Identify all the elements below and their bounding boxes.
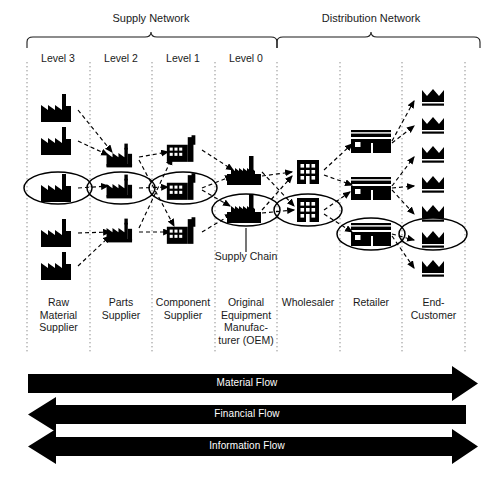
crown-icon (422, 146, 444, 163)
store-icon (351, 177, 391, 200)
distribution-network-label: Distribution Network (306, 12, 436, 24)
crown-icon (422, 176, 444, 193)
level-3-label: Level 3 (28, 52, 88, 64)
column-label-end-customer: End- Customer (403, 296, 464, 321)
factory-icon (107, 144, 133, 168)
level-1-label: Level 1 (153, 52, 213, 64)
factory-windows-icon (167, 217, 196, 244)
column-label-retailer: Retailer (341, 296, 401, 309)
material-flow-label: Material Flow (177, 377, 317, 388)
factory-windows-icon (167, 173, 196, 200)
crown-icon (422, 205, 444, 222)
column-label-oem: Original Equipment Manufac- turer (OEM) (216, 296, 276, 346)
column-label-parts-supplier: Parts Supplier (91, 296, 151, 321)
crown-icon (422, 260, 444, 277)
supply-chain-diagram: Supply Network Distribution Network Leve… (0, 0, 494, 481)
factory-icon (107, 175, 133, 199)
supply-network-brace (27, 32, 277, 48)
plant-icon (227, 194, 261, 223)
store-icon (351, 130, 391, 153)
factory-windows-icon (167, 135, 196, 162)
supply-chain-annotation-label: Supply Chain (198, 250, 294, 262)
office-building-icon (297, 160, 319, 184)
distribution-network-brace (277, 32, 480, 48)
factory-icon (41, 94, 71, 122)
factory-icon (41, 252, 71, 280)
factory-icon (107, 219, 133, 243)
factory-icon (41, 219, 71, 247)
information-flow-label: Information Flow (177, 440, 317, 451)
crown-icon (422, 117, 444, 134)
factory-icon (41, 127, 71, 155)
supply-network-label: Supply Network (91, 12, 211, 24)
column-label-wholesaler: Wholesaler (277, 296, 339, 309)
level-0-label: Level 0 (216, 52, 276, 64)
crown-icon (422, 231, 444, 248)
plant-icon (227, 156, 261, 185)
factory-icon (41, 174, 71, 202)
column-label-component-supplier: Component Supplier (152, 296, 214, 321)
level-2-label: Level 2 (91, 52, 151, 64)
crown-icon (422, 89, 444, 106)
column-label-raw-material-supplier: Raw Material Supplier (28, 296, 89, 334)
financial-flow-label: Financial Flow (177, 408, 317, 419)
store-icon (351, 223, 391, 246)
office-building-icon (297, 198, 319, 222)
